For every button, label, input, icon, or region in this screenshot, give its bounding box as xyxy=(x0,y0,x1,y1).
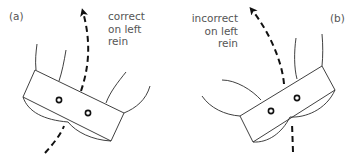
panel-a-circle-left xyxy=(56,97,61,102)
rein-diagram-figure: (a) correct on left rein (b) incorrect o… xyxy=(0,0,361,161)
panel-a-caption: (a) xyxy=(9,10,24,23)
panel-b-circle-right xyxy=(294,95,299,100)
panel-a-note-line-2: on left xyxy=(108,23,145,36)
panel-b-outline-left-flank xyxy=(222,80,261,100)
panel-b-circle-left xyxy=(268,108,273,113)
panel-b-outline-right-flank xyxy=(322,34,323,66)
panel-a-box xyxy=(23,70,124,141)
panel-b-box xyxy=(240,66,335,142)
panel-a-outline-left-flank xyxy=(36,44,37,70)
panel-b-note: incorrect on left rein xyxy=(180,12,238,50)
panel-b-note-line-1: incorrect xyxy=(180,12,238,25)
panel-a-note-line-3: rein xyxy=(108,35,145,48)
panel-a-path-upper xyxy=(81,12,88,91)
panel-b-caption: (b) xyxy=(330,12,345,25)
panel-a-note-line-1: correct xyxy=(108,10,145,23)
panel-a-outline-far-flank xyxy=(124,86,150,113)
panel-b-path-upper xyxy=(252,10,284,84)
panel-a-path-lower xyxy=(45,126,64,153)
panel-a-outline-mid-flank xyxy=(59,50,66,81)
panel-a-note: correct on left rein xyxy=(108,10,145,48)
panel-b-outline-far-left-flank xyxy=(202,96,240,116)
panel-a-outline-right-flank xyxy=(106,72,126,103)
panel-a-circle-right xyxy=(85,110,90,115)
panel-b-outline-mid-flank xyxy=(295,38,297,79)
panel-b-note-line-2: on left xyxy=(180,25,238,38)
panel-b-path-lower xyxy=(292,123,293,152)
panel-b-note-line-3: rein xyxy=(180,37,238,50)
